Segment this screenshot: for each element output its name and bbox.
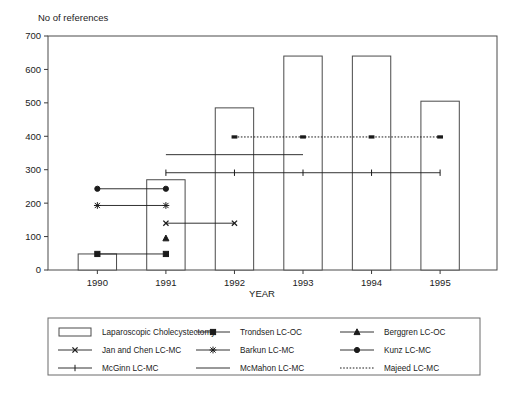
bar-1994: [352, 56, 390, 270]
y-tick-label: 400: [25, 131, 41, 142]
legend-label: Barkun LC-MC: [240, 346, 294, 355]
legend-entries: Laparoscopic CholecystectomyTrondsen LC-…: [58, 328, 446, 373]
x-tick-label-1995: 1995: [430, 277, 451, 288]
legend-label: Jan and Chen LC-MC: [102, 346, 181, 355]
legend-item-laparoscopic-cholecystectomy: Laparoscopic Cholecystectomy: [59, 328, 216, 337]
x-tick-label-1994: 1994: [361, 277, 382, 288]
x-tick-label-1993: 1993: [292, 277, 313, 288]
y-tick-label: 100: [25, 231, 41, 242]
y-tick-label: 700: [25, 30, 41, 41]
legend-label: McGinn LC-MC: [102, 364, 158, 373]
span-majeed-lc-mc: [232, 136, 442, 138]
legend-label: Berggren LC-OC: [384, 328, 446, 337]
x-tick-label-1991: 1991: [155, 277, 176, 288]
references-by-year-chart: No of references YEAR 010020030040050060…: [0, 0, 525, 401]
y-tick-label: 500: [25, 97, 41, 108]
span-mcginn-lc-mc: [166, 170, 440, 176]
y-tick-label: 600: [25, 64, 41, 75]
legend-label: Majeed LC-MC: [384, 364, 439, 373]
bar-series-laparoscopic-cholecystectomy: [78, 56, 459, 270]
chart-page: No of references YEAR 010020030040050060…: [0, 0, 525, 401]
y-axis-title: No of references: [38, 12, 108, 23]
x-axis-ticks: 199019911992199319941995: [87, 270, 451, 288]
bar-1993: [284, 56, 322, 270]
bar-1995: [421, 101, 459, 270]
y-tick-label: 0: [36, 264, 41, 275]
bar-1992: [215, 108, 253, 270]
legend-label: Trondsen LC-OC: [240, 328, 302, 337]
legend-label: McMahon LC-MC: [240, 364, 304, 373]
y-tick-label: 300: [25, 164, 41, 175]
x-axis-title: YEAR: [249, 288, 275, 299]
x-tick-label-1992: 1992: [224, 277, 245, 288]
y-axis-ticks: 0100200300400500600700: [25, 30, 48, 275]
legend-label: Laparoscopic Cholecystectomy: [102, 328, 216, 337]
x-tick-label-1990: 1990: [87, 277, 108, 288]
legend-label: Kunz LC-MC: [384, 346, 431, 355]
y-tick-label: 200: [25, 198, 41, 209]
